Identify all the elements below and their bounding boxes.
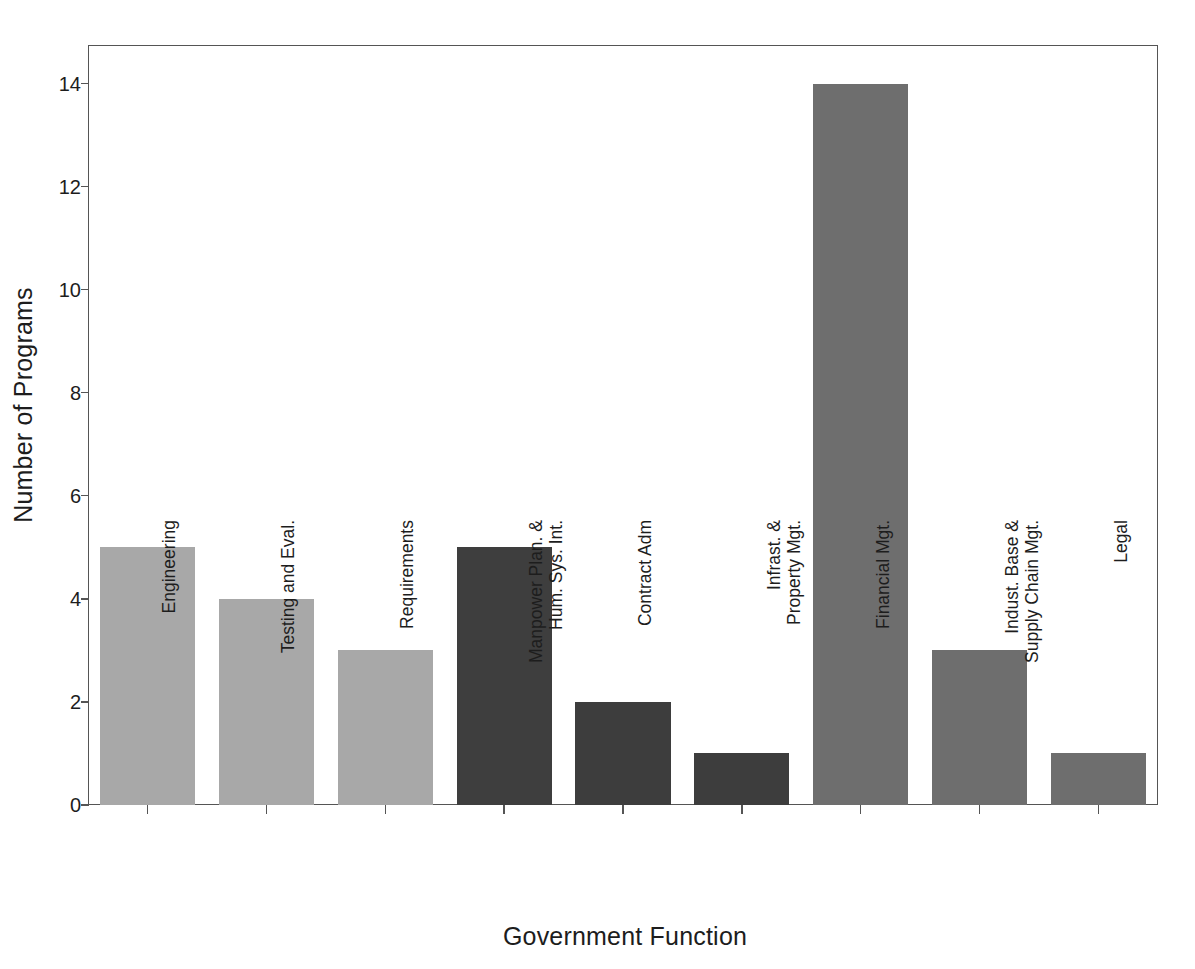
x-axis-tick-label: Testing and Eval.: [277, 520, 299, 820]
x-axis-tick-mark: [741, 805, 742, 814]
x-axis-tick-label-line: Hum. Sys. Int.: [546, 520, 566, 630]
x-axis-tick-label-line: Manpower Plan. &: [526, 520, 546, 663]
y-axis-tick-label: 4: [70, 587, 81, 610]
x-axis-tick-mark: [979, 805, 980, 814]
bar: [219, 599, 314, 805]
x-axis-tick-label: Manpower Plan. &Hum. Sys. Int.: [525, 520, 567, 820]
x-axis-tick-label-line: Contract Adm: [635, 520, 655, 626]
y-axis-tick-mark: [81, 598, 89, 599]
x-axis-tick-label-line: Supply Chain Mgt.: [1022, 520, 1042, 663]
x-axis-tick-label-line: Financial Mgt.: [873, 520, 893, 629]
x-axis-tick-label: Contract Adm: [634, 520, 656, 820]
y-axis-title: Number of Programs: [0, 0, 46, 810]
bar: [100, 547, 195, 805]
x-axis-tick-mark: [860, 805, 861, 814]
y-axis-tick-label: 8: [70, 381, 81, 404]
bar: [338, 650, 433, 805]
y-axis-tick-mark: [81, 83, 89, 84]
bar: [813, 84, 908, 805]
x-axis-tick-label-line: Legal: [1111, 520, 1131, 563]
x-axis-title: Government Function: [0, 922, 1195, 951]
x-axis-tick-mark: [1098, 805, 1099, 814]
x-axis-tick-label: Infrast. &Property Mgt.: [763, 520, 805, 820]
y-axis-tick-label: 14: [59, 72, 81, 95]
y-axis-tick-label: 12: [59, 175, 81, 198]
y-axis-tick-mark: [81, 392, 89, 393]
bar-chart-figure: Number of Programs Government Function 0…: [0, 0, 1195, 969]
y-axis-tick-mark: [81, 495, 89, 496]
y-axis-tick-mark: [81, 186, 89, 187]
x-axis-tick-label: Engineering: [158, 520, 180, 820]
x-axis-tick-mark: [622, 805, 623, 814]
x-axis-tick-label-line: Requirements: [397, 520, 417, 629]
x-axis-tick-mark: [147, 805, 148, 814]
y-axis-tick-label: 10: [59, 278, 81, 301]
x-axis-tick-label: Indust. Base &Supply Chain Mgt.: [1001, 520, 1043, 820]
x-axis-tick-mark: [266, 805, 267, 814]
x-axis-tick-label-line: Testing and Eval.: [278, 520, 298, 653]
x-axis-tick-label-line: Property Mgt.: [784, 520, 804, 625]
x-axis-tick-label: Legal: [1110, 520, 1132, 820]
x-axis-tick-label-line: Indust. Base &: [1002, 520, 1022, 634]
plot-area: [88, 45, 1158, 805]
y-axis-tick-mark: [81, 701, 89, 702]
x-axis-tick-label: Financial Mgt.: [872, 520, 894, 820]
x-axis-tick-mark: [503, 805, 504, 814]
y-axis-tick-label: 0: [70, 794, 81, 817]
x-axis-tick-label-line: Infrast. &: [764, 520, 784, 590]
x-axis-tick-mark: [385, 805, 386, 814]
y-axis-tick-label: 2: [70, 690, 81, 713]
y-axis-tick-mark: [81, 804, 89, 805]
bar: [575, 702, 670, 805]
x-axis-tick-label: Requirements: [396, 520, 418, 820]
x-axis-tick-label-line: Engineering: [159, 520, 179, 613]
y-axis-tick-mark: [81, 289, 89, 290]
y-axis-tick-label: 6: [70, 484, 81, 507]
